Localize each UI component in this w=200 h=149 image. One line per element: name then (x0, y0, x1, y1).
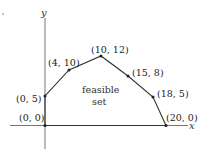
y-axis-label: y (40, 7, 47, 18)
region-label-line1: feasible (82, 84, 120, 95)
vertex-point (164, 124, 167, 127)
vertex-point (68, 69, 71, 72)
vertex-label: (4, 10) (48, 57, 80, 68)
vertex-point (127, 75, 130, 78)
vertex-label: (18, 5) (157, 88, 189, 99)
vertex-label: (0, 5) (16, 93, 42, 104)
vertex-label: (0, 0) (19, 112, 45, 123)
feasible-set-diagram: y x (0, 0) (0, 5) (4, 10) (10, 12) (15, … (0, 0, 200, 149)
vertex-point (43, 124, 46, 127)
vertex-label: (20, 0) (166, 112, 198, 123)
vertex-label: (10, 12) (91, 44, 129, 55)
region-label-line2: set (92, 96, 106, 107)
vertex-point (44, 95, 47, 98)
vertex-point (152, 96, 155, 99)
stray-dot (2, 13, 3, 14)
vertex-label: (15, 8) (132, 67, 164, 78)
